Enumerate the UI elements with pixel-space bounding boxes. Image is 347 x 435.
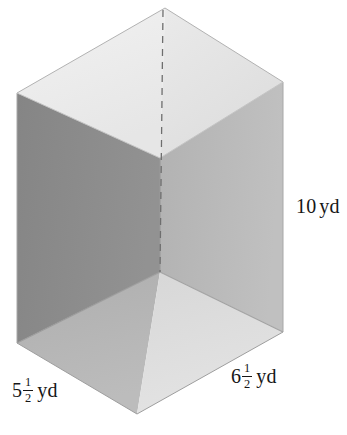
prism-drawing — [0, 0, 347, 435]
width-unit: yd — [37, 380, 57, 400]
depth-mixed-number: 612 — [231, 362, 253, 391]
height-value: 10 — [296, 196, 316, 216]
depth-denominator: 2 — [242, 377, 251, 391]
height-unit: yd — [319, 196, 339, 216]
depth-unit: yd — [256, 366, 276, 386]
depth-whole: 6 — [231, 366, 241, 386]
prism-figure: 10yd 512yd 612yd — [0, 0, 347, 435]
depth-fraction: 12 — [242, 362, 251, 391]
width-label: 512yd — [12, 376, 58, 405]
height-label: 10yd — [296, 196, 340, 216]
depth-label: 612yd — [231, 362, 277, 391]
depth-numerator: 1 — [242, 362, 251, 377]
width-numerator: 1 — [23, 376, 32, 391]
width-whole: 5 — [12, 380, 22, 400]
width-denominator: 2 — [23, 391, 32, 405]
width-fraction: 12 — [23, 376, 32, 405]
width-mixed-number: 512 — [12, 376, 34, 405]
